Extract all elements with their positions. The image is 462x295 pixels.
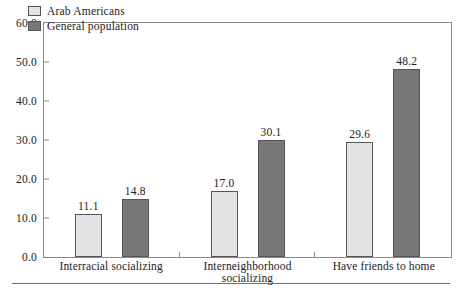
- bar: 30.1: [258, 140, 285, 257]
- bar: 29.6: [346, 142, 373, 257]
- bar: 17.0: [211, 191, 238, 257]
- bar-groups: 11.114.817.030.129.648.2: [44, 23, 451, 257]
- bar-group: 11.114.8: [44, 23, 180, 257]
- x-axis-category-label: Interneighborhood socializing: [179, 260, 315, 284]
- y-axis-tick-label: 0.0: [22, 251, 37, 263]
- x-axis-category-label: Interracial socializing: [43, 260, 179, 284]
- legend-item: General population: [28, 19, 139, 33]
- x-axis-category-label: Have friends to home: [316, 260, 452, 284]
- bar-value-label: 48.2: [396, 55, 417, 67]
- chart-legend: Arab AmericansGeneral population: [28, 4, 139, 34]
- plot-area: 0.010.020.030.040.050.060.0 11.114.817.0…: [43, 22, 452, 258]
- bar: 14.8: [122, 199, 149, 257]
- bar-value-label: 11.1: [78, 200, 99, 212]
- legend-label: Arab Americans: [47, 5, 125, 17]
- bar: 11.1: [75, 214, 102, 257]
- bar: 48.2: [393, 69, 420, 257]
- x-axis-category-labels: Interracial socializingInterneighborhood…: [43, 260, 452, 284]
- bar-value-label: 29.6: [349, 128, 370, 140]
- y-axis-tick-label: 30.0: [16, 134, 37, 146]
- bar-value-label: 17.0: [214, 177, 235, 189]
- bar-chart-figure: 0.010.020.030.040.050.060.0 11.114.817.0…: [0, 0, 462, 295]
- y-axis-tick-label: 40.0: [16, 95, 37, 107]
- y-axis-tick-label: 50.0: [16, 56, 37, 68]
- footer-rule: [12, 283, 450, 284]
- legend-item: Arab Americans: [28, 4, 139, 18]
- bar-group: 29.648.2: [315, 23, 451, 257]
- bar-value-label: 30.1: [261, 126, 282, 138]
- y-axis-tick-label: 10.0: [16, 212, 37, 224]
- legend-color-swatch: [28, 21, 41, 31]
- legend-label: General population: [47, 20, 139, 32]
- bar-value-label: 14.8: [125, 185, 146, 197]
- bar-group: 17.030.1: [180, 23, 316, 257]
- legend-color-swatch: [28, 6, 41, 16]
- y-axis-tick-label: 20.0: [16, 173, 37, 185]
